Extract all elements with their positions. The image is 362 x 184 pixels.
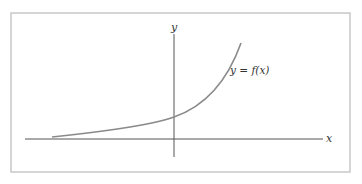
x-axis-label: x	[326, 132, 333, 145]
function-graph-figure: x y y = f(x)	[0, 0, 362, 184]
graph-canvas: x y y = f(x)	[0, 0, 362, 184]
figure-frame	[11, 13, 350, 172]
curve-label: y = f(x)	[229, 64, 269, 76]
y-axis-label: y	[170, 21, 178, 34]
